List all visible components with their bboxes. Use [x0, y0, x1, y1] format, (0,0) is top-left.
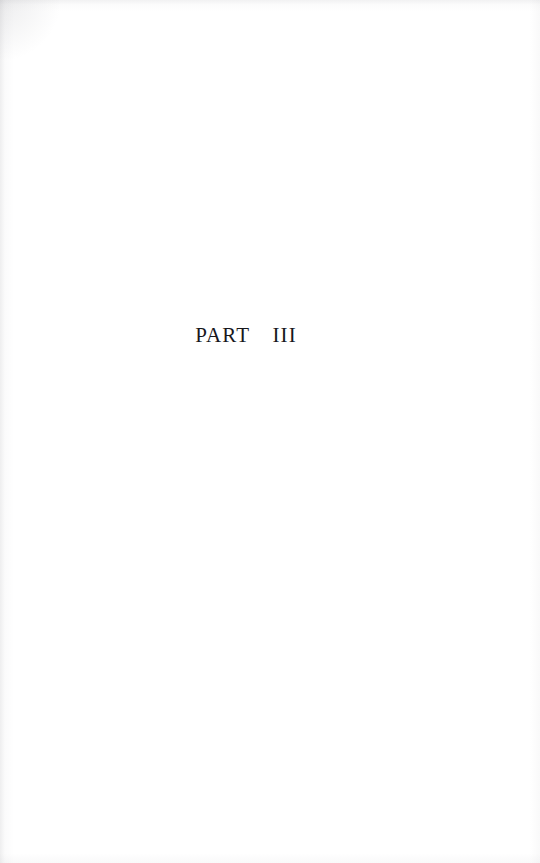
scan-edge-shadow-bottom [0, 853, 540, 863]
scan-edge-shadow-top [0, 0, 540, 12]
scan-corner-shadow [0, 0, 60, 60]
document-page: PART III [0, 0, 540, 863]
scan-edge-shadow-right [530, 0, 540, 863]
part-title: PART III [195, 322, 297, 348]
part-title-block: PART III [0, 322, 492, 348]
scan-edge-shadow-left [0, 0, 14, 863]
